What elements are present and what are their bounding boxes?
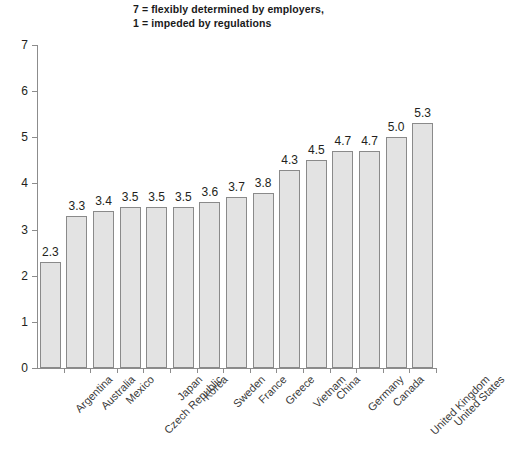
bar[interactable] [332,151,353,368]
bar-value-label: 5.3 [414,106,431,120]
chart-title-line-1: 7 = flexibly determined by employers, [133,3,433,17]
y-tick-mark [32,368,37,369]
x-tick-mark [64,368,65,373]
bar-value-label: 3.6 [202,185,219,199]
y-axis-line [37,45,38,368]
y-tick-mark [32,91,37,92]
bar-value-label: 2.3 [42,245,59,259]
bar-value-label: 4.3 [281,153,298,167]
x-tick-mark [276,368,277,373]
y-tick-mark [32,137,37,138]
x-tick-mark [436,368,437,373]
bar-value-label: 4.7 [361,134,378,148]
y-tick-label: 5 [21,130,28,144]
bar[interactable] [120,207,141,369]
y-tick-label: 4 [21,176,28,190]
y-tick-label: 6 [21,84,28,98]
bar[interactable] [279,170,300,368]
x-tick-mark [197,368,198,373]
bar-value-label: 3.3 [69,199,86,213]
bar[interactable] [412,123,433,368]
chart-title-line-2: 1 = impeded by regulations [133,17,433,31]
x-tick-mark [170,368,171,373]
x-tick-mark [90,368,91,373]
plot-area: 01234567 2.33.33.43.53.53.53.63.73.84.34… [37,45,436,368]
bar-value-label: 3.5 [148,190,165,204]
y-tick-label: 2 [21,269,28,283]
y-tick-mark [32,183,37,184]
clipped-footer-text [6,446,306,454]
x-category-label: Korea [201,373,230,402]
bar[interactable] [359,151,380,368]
bar-value-label: 3.5 [175,190,192,204]
y-tick-mark [32,322,37,323]
bar[interactable] [199,202,220,368]
x-tick-mark [356,368,357,373]
x-tick-mark [383,368,384,373]
bar[interactable] [93,211,114,368]
y-tick-label: 0 [21,361,28,375]
bar-value-label: 3.7 [228,180,245,194]
x-tick-mark [250,368,251,373]
bar[interactable] [146,207,167,369]
y-tick-label: 1 [21,315,28,329]
x-tick-mark [330,368,331,373]
chart-title: 7 = flexibly determined by employers, 1 … [133,3,433,30]
x-tick-mark [303,368,304,373]
bar[interactable] [40,262,61,368]
bar[interactable] [66,216,87,368]
bar[interactable] [306,160,327,368]
bar-value-label: 3.8 [255,176,272,190]
bar[interactable] [173,207,194,369]
y-tick-mark [32,276,37,277]
x-tick-mark [143,368,144,373]
bar-value-label: 3.5 [122,190,139,204]
x-tick-mark [409,368,410,373]
x-tick-mark [117,368,118,373]
bar-value-label: 5.0 [388,120,405,134]
bar-value-label: 4.7 [335,134,352,148]
bar-value-label: 3.4 [95,194,112,208]
y-tick-mark [32,230,37,231]
x-axis-line [37,368,436,369]
y-tick-mark [32,45,37,46]
y-tick-label: 3 [21,223,28,237]
bar[interactable] [253,193,274,368]
bar[interactable] [386,137,407,368]
bar-value-label: 4.5 [308,143,325,157]
y-tick-label: 7 [21,38,28,52]
x-tick-mark [223,368,224,373]
bar[interactable] [226,197,247,368]
